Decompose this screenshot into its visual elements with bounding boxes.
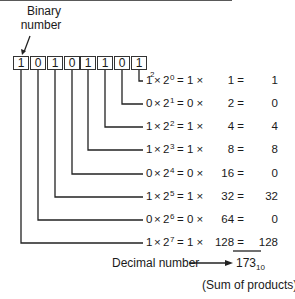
row-bit: 0 <box>146 213 152 226</box>
bit-cell-4: 0 <box>64 56 80 70</box>
row-product: 1 <box>252 74 278 87</box>
row-exponent: 7 <box>170 233 174 246</box>
row-product: 0 <box>252 97 278 110</box>
row-exponent: 5 <box>170 187 174 200</box>
row-place-value: 64 = <box>214 213 244 226</box>
row-exponent: 3 <box>170 140 174 153</box>
result-value: 173 <box>236 256 256 270</box>
bit-cell-1: 0 <box>114 56 130 70</box>
row-exponent: 4 <box>170 164 174 177</box>
row-place-value: 32 = <box>214 190 244 203</box>
row-product: 4 <box>252 120 278 133</box>
row-place-value: 4 = <box>214 120 244 133</box>
row-exponent: 0 <box>170 71 174 84</box>
row-multiplier: 0 × <box>187 213 203 226</box>
row-bit: 1 <box>146 74 152 87</box>
row-exponent: 1 <box>170 94 174 107</box>
row-place-value: 8 = <box>214 143 244 156</box>
row-product: 32 <box>252 190 278 203</box>
row-bit: 1 <box>146 236 152 249</box>
bit-cell-0: 1 <box>131 56 147 70</box>
row-product: 8 <box>252 143 278 156</box>
result-base: 10 <box>256 263 265 272</box>
row-multiplier: 1 × <box>187 74 203 87</box>
row-place-value: 16 = <box>214 167 244 180</box>
row-bit: 0 <box>146 167 152 180</box>
row-product: 0 <box>252 167 278 180</box>
row-multiplier: 1 × <box>187 143 203 156</box>
bit-cell-6: 0 <box>30 56 46 70</box>
row-place-value: 2 = <box>214 97 244 110</box>
row-exponent: 6 <box>170 210 174 223</box>
row-bit: 1 <box>146 143 152 156</box>
bit-cell-5: 1 <box>47 56 63 70</box>
row-multiplier: 0 × <box>187 97 203 110</box>
decimal-number-label: Decimal number <box>112 256 199 270</box>
row-multiplier: 1 × <box>187 236 203 249</box>
row-product: 0 <box>252 213 278 226</box>
row-product: 128 <box>252 236 278 249</box>
row-multiplier: 1 × <box>187 120 203 133</box>
sum-of-products-note: (Sum of products) <box>202 278 295 292</box>
decimal-result: 17310 <box>236 256 265 275</box>
row-bit: 0 <box>146 97 152 110</box>
bit-cell-2: 1 <box>97 56 113 70</box>
row-bit: 1 <box>146 190 152 203</box>
row-place-value: 1 = <box>214 74 244 87</box>
row-place-value: 128 = <box>214 236 244 249</box>
bit-cell-3: 1 <box>80 56 96 70</box>
row-multiplier: 1 × <box>187 190 203 203</box>
row-exponent: 2 <box>170 117 174 130</box>
row-bit: 1 <box>146 120 152 133</box>
row-multiplier: 0 × <box>187 167 203 180</box>
bit-cell-7: 1 <box>13 56 29 70</box>
